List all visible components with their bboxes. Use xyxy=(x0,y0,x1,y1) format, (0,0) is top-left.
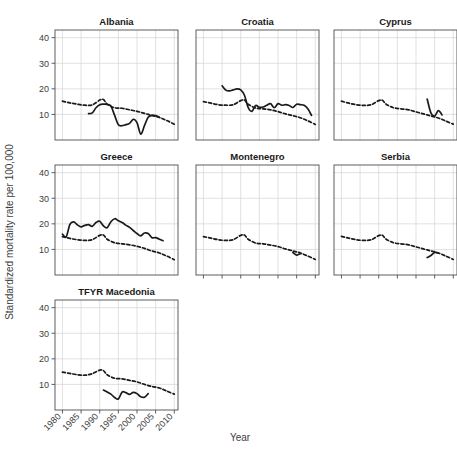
panel-title: Serbia xyxy=(381,151,411,162)
y-tick-label: 20 xyxy=(39,219,49,229)
panel-title: Greece xyxy=(100,151,132,162)
y-tick-label: 30 xyxy=(39,59,49,69)
y-tick-label: 10 xyxy=(39,245,49,255)
panel-background xyxy=(196,165,319,275)
facet-panel-croatia: Croatia xyxy=(196,16,319,140)
facet-panel-tfyr-macedonia: TFYR Macedonia xyxy=(55,286,178,410)
panel-background xyxy=(334,165,457,275)
y-tick-label: 40 xyxy=(39,33,49,43)
panel-title: Albania xyxy=(99,16,134,27)
panel-background xyxy=(55,30,178,140)
faceted-line-chart: AlbaniaCroatiaCyprusGreeceMontenegroSerb… xyxy=(0,0,457,456)
panel-background xyxy=(334,30,457,140)
panel-title: Cyprus xyxy=(379,16,412,27)
facet-panel-cyprus: Cyprus xyxy=(334,16,457,140)
y-tick-label: 30 xyxy=(39,329,49,339)
y-tick-label: 10 xyxy=(39,380,49,390)
panel-title: Croatia xyxy=(241,16,274,27)
y-axis-title: Standardized mortality rate per 100,000 xyxy=(4,144,15,320)
panel-background xyxy=(55,300,178,410)
panel-background xyxy=(196,30,319,140)
facet-panel-greece: Greece xyxy=(55,151,178,275)
y-tick-label: 40 xyxy=(39,168,49,178)
x-axis-title: Year xyxy=(230,432,251,443)
y-tick-label: 20 xyxy=(39,354,49,364)
y-tick-label: 40 xyxy=(39,303,49,313)
facet-panel-montenegro: Montenegro xyxy=(196,151,319,275)
panel-title: Montenegro xyxy=(230,151,285,162)
y-tick-label: 20 xyxy=(39,84,49,94)
y-tick-label: 10 xyxy=(39,110,49,120)
facet-panel-albania: Albania xyxy=(55,16,178,140)
panel-title: TFYR Macedonia xyxy=(78,286,155,297)
facet-panel-serbia: Serbia xyxy=(334,151,457,275)
y-tick-label: 30 xyxy=(39,194,49,204)
chart-figure: AlbaniaCroatiaCyprusGreeceMontenegroSerb… xyxy=(0,0,457,456)
